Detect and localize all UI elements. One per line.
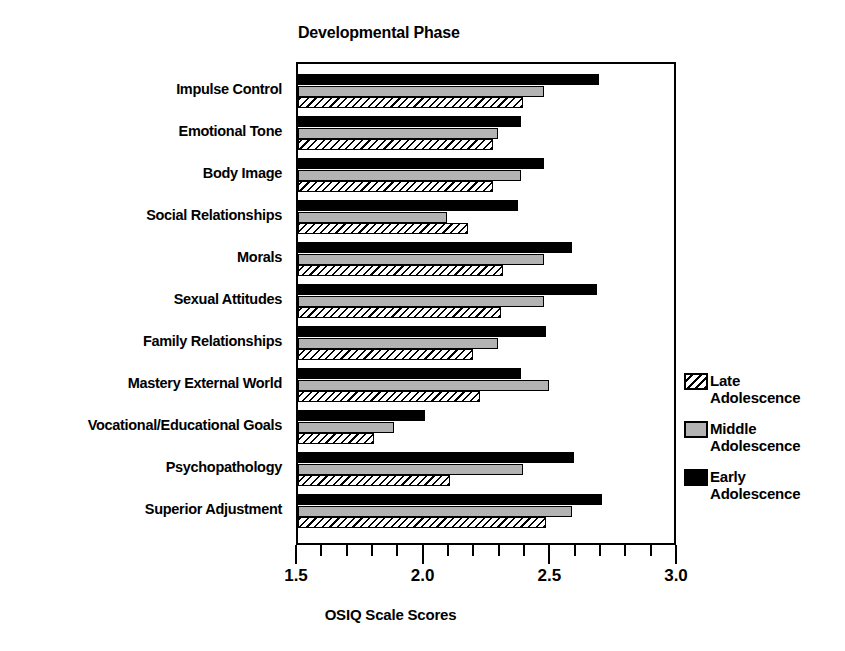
bar-group <box>298 158 674 200</box>
bar-middle <box>298 506 572 517</box>
legend: LateAdolescenceMiddleAdolescenceEarlyAdo… <box>684 372 842 516</box>
x-tick-minor <box>650 545 652 556</box>
bar-late <box>298 307 501 318</box>
x-axis-title: OSIQ Scale Scores <box>0 606 845 623</box>
x-axis-title-text: OSIQ Scale Scores <box>325 606 457 623</box>
bar-early <box>298 326 546 337</box>
bar-late <box>298 391 480 402</box>
x-tick-minor <box>498 545 500 556</box>
bar-late <box>298 139 493 150</box>
bar-middle <box>298 464 523 475</box>
category-label: Mastery External World <box>128 375 282 391</box>
category-label: Social Relationships <box>146 207 282 223</box>
bar-late <box>298 181 493 192</box>
x-axis <box>296 545 676 567</box>
plot-area <box>296 62 676 545</box>
bar-group <box>298 116 674 158</box>
bar-early <box>298 242 572 253</box>
x-tick-minor <box>371 545 373 556</box>
bar-early <box>298 74 599 85</box>
x-tick-major <box>422 545 424 564</box>
bar-group <box>298 284 674 326</box>
x-tick-major <box>295 545 297 564</box>
bar-middle <box>298 380 549 391</box>
bar-group <box>298 242 674 284</box>
bar-early <box>298 158 544 169</box>
bar-middle <box>298 296 544 307</box>
category-label: Family Relationships <box>143 333 282 349</box>
bar-group <box>298 74 674 116</box>
bar-group <box>298 410 674 452</box>
bar-group <box>298 452 674 494</box>
legend-item[interactable]: MiddleAdolescence <box>684 420 842 454</box>
bar-middle <box>298 338 498 349</box>
legend-swatch-middle <box>684 421 708 438</box>
x-tick-label: 3.0 <box>664 566 688 586</box>
bar-middle <box>298 422 394 433</box>
bar-late <box>298 517 546 528</box>
bar-early <box>298 368 521 379</box>
bar-early <box>298 200 518 211</box>
legend-label-line2: Adolescence <box>710 437 800 454</box>
x-tick-major <box>675 545 677 564</box>
bar-late <box>298 265 503 276</box>
bar-group <box>298 368 674 410</box>
x-tick-minor <box>472 545 474 556</box>
bar-early <box>298 410 425 421</box>
x-tick-minor <box>523 545 525 556</box>
x-tick-minor <box>624 545 626 556</box>
bar-early <box>298 494 602 505</box>
bar-late <box>298 97 523 108</box>
category-label: Morals <box>237 249 282 265</box>
category-label: Vocational/Educational Goals <box>88 417 282 433</box>
bar-group <box>298 494 674 536</box>
legend-label-line1: Late <box>710 372 740 389</box>
x-tick-label: 2.5 <box>538 566 562 586</box>
x-tick-minor <box>396 545 398 556</box>
bar-early <box>298 452 574 463</box>
bar-middle <box>298 170 521 181</box>
x-tick-label: 1.5 <box>284 566 308 586</box>
bar-middle <box>298 212 447 223</box>
bar-middle <box>298 128 498 139</box>
x-tick-minor <box>320 545 322 556</box>
category-label: Emotional Tone <box>179 123 282 139</box>
legend-label-line2: Adolescence <box>710 389 800 406</box>
x-tick-minor <box>599 545 601 556</box>
x-tick-minor <box>346 545 348 556</box>
bar-early <box>298 284 597 295</box>
chart-title: Developmental Phase <box>298 24 460 42</box>
bar-late <box>298 475 450 486</box>
bar-group <box>298 326 674 368</box>
category-axis-labels: Impulse ControlEmotional ToneBody ImageS… <box>0 62 290 545</box>
legend-item[interactable]: LateAdolescence <box>684 372 842 406</box>
bar-late <box>298 433 374 444</box>
legend-swatch-late <box>684 373 708 390</box>
bar-late <box>298 223 468 234</box>
x-tick-major <box>548 545 550 564</box>
x-tick-label: 2.0 <box>411 566 435 586</box>
category-label: Sexual Attitudes <box>174 291 282 307</box>
x-tick-minor <box>447 545 449 556</box>
legend-label-line1: Early <box>710 468 746 485</box>
category-label: Psychopathology <box>166 459 282 475</box>
legend-swatch-early <box>684 469 708 486</box>
chart-figure: Developmental Phase Impulse ControlEmoti… <box>0 0 845 651</box>
legend-label-line1: Middle <box>710 420 756 437</box>
legend-item[interactable]: EarlyAdolescence <box>684 468 842 502</box>
category-label: Impulse Control <box>176 81 282 97</box>
bar-group <box>298 200 674 242</box>
x-tick-minor <box>574 545 576 556</box>
bar-late <box>298 349 473 360</box>
legend-label-line2: Adolescence <box>710 485 800 502</box>
bar-early <box>298 116 521 127</box>
bar-middle <box>298 86 544 97</box>
bar-middle <box>298 254 544 265</box>
bars-layer <box>298 64 674 543</box>
category-label: Superior Adjustment <box>145 501 282 517</box>
category-label: Body Image <box>203 165 282 181</box>
